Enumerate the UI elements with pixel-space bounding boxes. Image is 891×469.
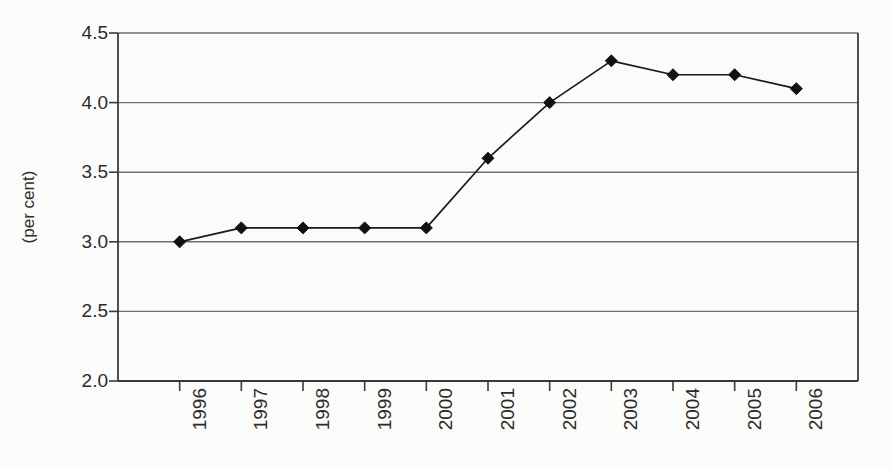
x-tick-label: 2003 (621, 388, 641, 458)
x-tick-label: 2005 (745, 388, 765, 458)
x-tick-label: 2006 (806, 388, 826, 458)
x-tick-label: 1996 (190, 388, 210, 458)
x-axis-tick-labels: 1996199719981999200020012002200320042005… (0, 0, 891, 469)
x-tick-label: 2002 (560, 388, 580, 458)
x-tick-label: 2000 (436, 388, 456, 458)
x-tick-label: 1999 (375, 388, 395, 458)
x-tick-label: 1998 (313, 388, 333, 458)
chart-page: 2.02.53.03.54.04.5 199619971998199920002… (0, 0, 891, 469)
x-tick-label: 1997 (251, 388, 271, 458)
x-tick-label: 2004 (683, 388, 703, 458)
line-chart-figure: 2.02.53.03.54.04.5 199619971998199920002… (0, 0, 891, 469)
x-tick-label: 2001 (498, 388, 518, 458)
y-axis-title: (per cent) (18, 137, 40, 277)
